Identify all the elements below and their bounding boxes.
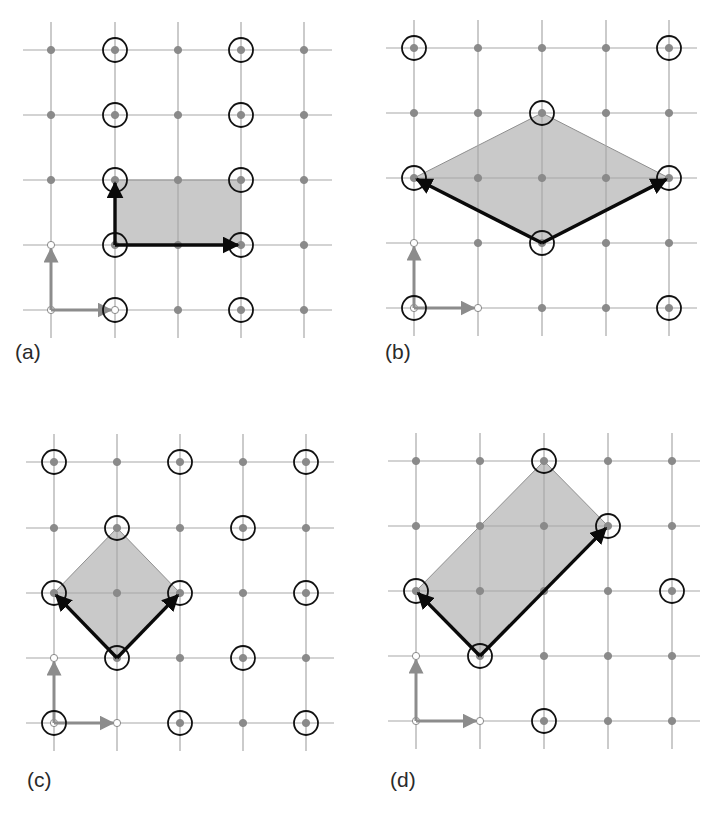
lattice-point (111, 111, 118, 118)
lattice-point (604, 717, 611, 724)
lattice-point (111, 176, 118, 183)
lattice-point (47, 241, 54, 248)
lattice-point (602, 44, 609, 51)
lattice-point (665, 109, 672, 116)
lattice-point (111, 306, 118, 313)
lattice-figure (0, 0, 725, 818)
lattice-point (602, 304, 609, 311)
lattice-point (237, 46, 244, 53)
lattice-point (239, 719, 246, 726)
lattice-point (176, 524, 183, 531)
lattice-point (668, 457, 675, 464)
lattice-point (237, 241, 244, 248)
lattice-point (300, 306, 307, 313)
lattice-point (604, 652, 611, 659)
lattice-point (113, 589, 120, 596)
panel-d-lattice (388, 433, 700, 749)
lattice-point (412, 522, 419, 529)
lattice-point (300, 46, 307, 53)
lattice-point (410, 239, 417, 246)
lattice-point (538, 304, 545, 311)
lattice-point (665, 304, 672, 311)
lattice-point (113, 524, 120, 531)
lattice-point (239, 524, 246, 531)
lattice-point (174, 46, 181, 53)
lattice-point (111, 46, 118, 53)
lattice-point (300, 176, 307, 183)
lattice-point (604, 457, 611, 464)
lattice-point (412, 652, 419, 659)
lattice-point (47, 111, 54, 118)
lattice-point (50, 524, 57, 531)
lattice-point (113, 719, 120, 726)
lattice-point (174, 176, 181, 183)
lattice-point (665, 239, 672, 246)
lattice-point (668, 522, 675, 529)
lattice-point (237, 176, 244, 183)
lattice-point (239, 589, 246, 596)
lattice-point (474, 174, 481, 181)
lattice-point (300, 111, 307, 118)
lattice-point (302, 719, 309, 726)
lattice-point (602, 239, 609, 246)
lattice-point (474, 109, 481, 116)
lattice-point (50, 654, 57, 661)
lattice-point (538, 174, 545, 181)
lattice-point (476, 457, 483, 464)
lattice-point (474, 239, 481, 246)
lattice-point (602, 109, 609, 116)
lattice-point (237, 306, 244, 313)
lattice-point (47, 46, 54, 53)
panel-c-label: (c) (27, 768, 52, 792)
lattice-point (412, 457, 419, 464)
lattice-point (668, 652, 675, 659)
panel-b-lattice (386, 20, 697, 336)
panel-d-label: (d) (390, 768, 416, 792)
lattice-point (538, 44, 545, 51)
lattice-point (410, 109, 417, 116)
lattice-point (476, 522, 483, 529)
lattice-point (176, 458, 183, 465)
lattice-point (176, 719, 183, 726)
lattice-point (668, 587, 675, 594)
lattice-point (474, 304, 481, 311)
lattice-point (174, 111, 181, 118)
lattice-point (239, 654, 246, 661)
lattice-point (302, 589, 309, 596)
lattice-point (174, 306, 181, 313)
lattice-point (668, 717, 675, 724)
lattice-point (302, 458, 309, 465)
lattice-point (540, 652, 547, 659)
panel-b-label: (b) (385, 340, 411, 364)
lattice-point (540, 457, 547, 464)
lattice-point (602, 174, 609, 181)
lattice-point (113, 458, 120, 465)
lattice-point (410, 44, 417, 51)
lattice-point (538, 109, 545, 116)
lattice-point (540, 717, 547, 724)
lattice-point (237, 111, 244, 118)
lattice-point (302, 524, 309, 531)
lattice-point (302, 654, 309, 661)
unit-cell-shape (416, 461, 608, 656)
lattice-point (476, 717, 483, 724)
lattice-point (50, 458, 57, 465)
panel-a-label: (a) (15, 340, 41, 364)
lattice-point (239, 458, 246, 465)
lattice-point (476, 587, 483, 594)
lattice-point (176, 654, 183, 661)
lattice-point (604, 587, 611, 594)
lattice-point (540, 522, 547, 529)
panel-a-lattice (23, 22, 332, 338)
panel-c-lattice (26, 434, 334, 751)
lattice-point (665, 44, 672, 51)
lattice-point (474, 44, 481, 51)
lattice-point (300, 241, 307, 248)
lattice-point (47, 176, 54, 183)
